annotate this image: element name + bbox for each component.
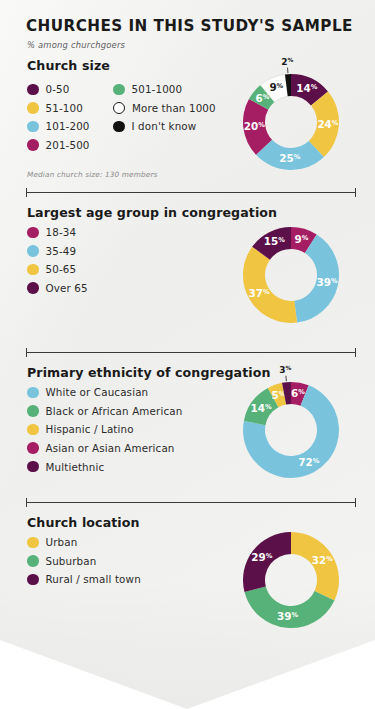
legend-item-label: Hispanic / Latino xyxy=(46,423,134,435)
donut-chart-church-size: 14%24%25%20%6%9%2% xyxy=(226,57,356,187)
legend-item[interactable]: 101-200 xyxy=(27,117,90,136)
section-title-church-size: Church size xyxy=(27,58,110,73)
legend-swatch-icon xyxy=(27,227,39,239)
legend-item[interactable]: Over 65 xyxy=(27,279,88,298)
legend-swatch-icon xyxy=(27,574,39,586)
legend-item[interactable]: Urban xyxy=(27,533,141,552)
legend-item[interactable]: Suburban xyxy=(27,552,141,571)
legend-swatch-icon xyxy=(27,245,39,257)
legend-item-label: 50-65 xyxy=(46,263,77,275)
legend-item[interactable]: White or Caucasian xyxy=(27,383,182,402)
section-divider xyxy=(26,498,356,508)
legend-item-label: More than 1000 xyxy=(132,102,216,114)
legend-item-label: I don't know xyxy=(132,120,197,132)
divider-end-cap-right xyxy=(355,348,356,357)
donut-slice-label: 3% xyxy=(279,365,291,375)
legend-item-label: 201-500 xyxy=(46,139,90,151)
legend-item-label: White or Caucasian xyxy=(46,386,149,398)
legend-item-label: 501-1000 xyxy=(132,83,183,95)
legend-item[interactable]: 35-49 xyxy=(27,242,88,261)
divider-line xyxy=(26,502,356,503)
legend-column: White or CaucasianBlack or African Ameri… xyxy=(27,383,182,476)
legend-item[interactable]: Black or African American xyxy=(27,402,182,421)
legend-item[interactable]: 501-1000 xyxy=(113,80,216,99)
legend-item[interactable]: Rural / small town xyxy=(27,570,141,589)
legend-item[interactable]: More than 1000 xyxy=(113,99,216,118)
legend-swatch-icon xyxy=(27,461,39,473)
legend-swatch-icon xyxy=(27,442,39,454)
legend-swatch-icon xyxy=(27,424,39,436)
divider-line xyxy=(26,352,356,353)
divider-end-cap-right xyxy=(355,188,356,197)
legend-column: 501-1000More than 1000I don't know xyxy=(113,80,216,136)
legend-item-label: 35-49 xyxy=(46,245,77,257)
donut-chart-primary-ethnicity: 6%72%14%5%3% xyxy=(226,365,356,495)
legend-item-label: Suburban xyxy=(46,555,97,567)
section-divider xyxy=(26,348,356,358)
page-title: CHURCHES IN THIS STUDY'S SAMPLE xyxy=(26,18,356,36)
legend-swatch-icon xyxy=(27,405,39,417)
legend-swatch-icon xyxy=(27,387,39,399)
divider-end-cap-left xyxy=(26,498,27,507)
legend-swatch-icon xyxy=(27,264,39,276)
legend-item-label: Rural / small town xyxy=(46,573,141,585)
donut-label-leader-line xyxy=(286,376,287,381)
legend-swatch-icon xyxy=(27,84,39,96)
legend-item-label: 101-200 xyxy=(46,120,90,132)
legend-item[interactable]: Hispanic / Latino xyxy=(27,420,182,439)
legend-swatch-icon xyxy=(27,139,39,151)
legend-item-label: 0-50 xyxy=(46,83,70,95)
section-footnote: Median church size: 130 members xyxy=(27,170,158,179)
legend-swatch-icon xyxy=(113,102,125,114)
legend-item-label: 51-100 xyxy=(46,102,83,114)
legend-swatch-icon xyxy=(27,102,39,114)
legend-item[interactable]: Asian or Asian American xyxy=(27,439,182,458)
legend-item[interactable]: I don't know xyxy=(113,117,216,136)
legend-column: 0-5051-100101-200201-500 xyxy=(27,80,90,154)
donut-chart-church-location: 32%39%29% xyxy=(226,515,356,645)
legend-column: 18-3435-4950-65Over 65 xyxy=(27,223,88,297)
legend-item-label: Black or African American xyxy=(46,405,183,417)
divider-end-cap-left xyxy=(26,188,27,197)
legend-item-label: Urban xyxy=(46,536,78,548)
divider-end-cap-right xyxy=(355,498,356,507)
donut-slice xyxy=(243,532,291,592)
legend-item[interactable]: Multiethnic xyxy=(27,457,182,476)
legend-swatch-icon xyxy=(113,84,125,96)
legend-swatch-icon xyxy=(113,121,125,133)
legend-item-label: Asian or Asian American xyxy=(46,442,175,454)
legend-swatch-icon xyxy=(27,555,39,567)
divider-end-cap-left xyxy=(26,348,27,357)
legend-swatch-icon xyxy=(27,282,39,294)
section-divider xyxy=(26,188,356,198)
donut-slice-label: 2% xyxy=(281,57,293,67)
legend-column: UrbanSuburbanRural / small town xyxy=(27,533,141,589)
legend-item[interactable]: 51-100 xyxy=(27,99,90,118)
legend-item-label: Multiethnic xyxy=(46,461,105,473)
legend-item[interactable]: 18-34 xyxy=(27,223,88,242)
donut-chart-largest-age-group: 9%39%37%15% xyxy=(226,210,356,340)
legend-item-label: 18-34 xyxy=(46,226,77,238)
legend-item-label: Over 65 xyxy=(46,282,88,294)
legend-swatch-icon xyxy=(27,121,39,133)
legend-item[interactable]: 201-500 xyxy=(27,136,90,155)
section-title-church-location: Church location xyxy=(27,515,140,530)
page-subtitle: % among churchgoers xyxy=(27,40,125,50)
divider-line xyxy=(26,192,356,193)
legend-item[interactable]: 50-65 xyxy=(27,260,88,279)
donut-slice xyxy=(291,532,339,600)
legend-item[interactable]: 0-50 xyxy=(27,80,90,99)
legend-swatch-icon xyxy=(27,537,39,549)
